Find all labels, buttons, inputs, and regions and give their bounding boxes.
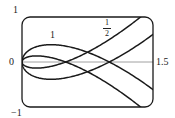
curve-label-1: 1 <box>50 30 55 40</box>
curve-label-half: 1 2 <box>103 19 111 38</box>
x-min-label: 0 <box>9 57 14 67</box>
fraction-denominator: 2 <box>105 29 109 38</box>
curve-group <box>22 0 175 118</box>
fraction-numerator: 1 <box>105 18 109 27</box>
plot-canvas <box>0 0 175 118</box>
y-min-label: −1 <box>11 108 22 118</box>
y-max-label: 1 <box>13 5 18 15</box>
curve-c-1-2 <box>22 0 175 118</box>
x-max-label: 1.5 <box>156 57 169 67</box>
